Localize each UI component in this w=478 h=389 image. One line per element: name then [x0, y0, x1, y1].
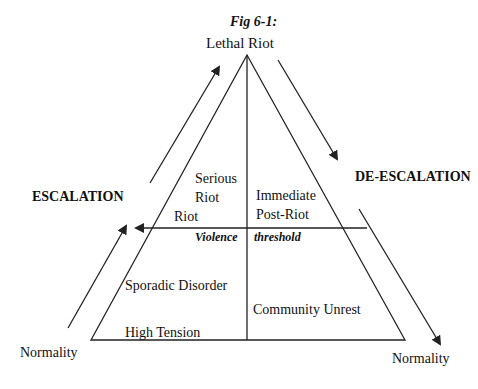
escalation-label: ESCALATION [32, 189, 124, 204]
threshold-label-left: Violence [195, 230, 238, 245]
deescalation-label: DE-ESCALATION [355, 169, 471, 184]
normality-right-label: Normality [392, 351, 450, 366]
escalation-arrow-lower [68, 226, 126, 328]
region-immediate-post-riot-line1: Immediate [256, 188, 316, 203]
deescalation-arrow-upper [278, 60, 337, 159]
region-riot: Riot [174, 209, 198, 224]
deescalation-arrow-lower [359, 209, 440, 344]
threshold-label-right: threshold [254, 230, 301, 245]
region-sporadic-disorder: Sporadic Disorder [125, 278, 227, 293]
region-immediate-post-riot-line2: Post-Riot [256, 207, 309, 222]
region-high-tension: High Tension [125, 325, 200, 340]
pyramid-outline [91, 55, 405, 340]
figure-caption: Fig 6-1: [230, 14, 277, 29]
region-serious-riot-line1: Serious [195, 171, 237, 186]
apex-label: Lethal Riot [206, 36, 274, 51]
region-community-unrest: Community Unrest [253, 302, 361, 317]
region-serious-riot-line2: Riot [195, 190, 219, 205]
normality-left-label: Normality [20, 345, 78, 360]
